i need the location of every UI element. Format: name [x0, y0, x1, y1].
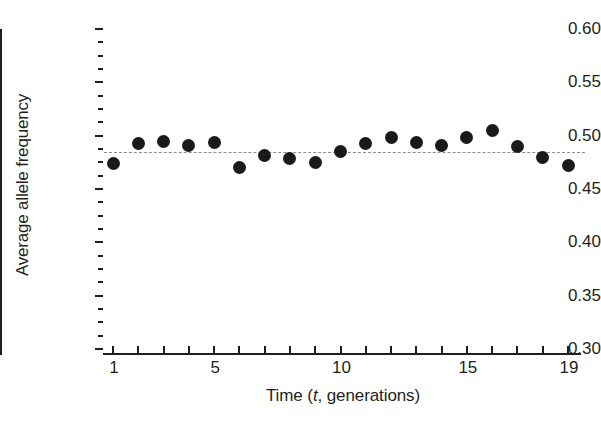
x-tick-label: 15: [448, 358, 488, 378]
data-point: [132, 137, 145, 150]
data-point: [562, 159, 575, 172]
y-tick-minor: [98, 215, 103, 217]
data-point: [435, 139, 448, 152]
y-tick-minor: [98, 121, 103, 123]
data-point: [208, 136, 221, 149]
y-tick-label: 0.50: [528, 126, 601, 146]
y-tick-minor: [98, 95, 103, 97]
data-point: [536, 151, 549, 164]
y-tick-major: [95, 295, 103, 297]
data-point: [410, 136, 423, 149]
data-point: [486, 124, 499, 137]
data-point: [283, 152, 296, 165]
x-axis-title-prefix: Time (: [266, 386, 313, 405]
y-tick-minor: [98, 321, 103, 323]
y-tick-major: [95, 81, 103, 83]
data-point: [309, 156, 322, 169]
y-axis-spine: [0, 29, 2, 355]
y-tick-minor: [98, 175, 103, 177]
x-tick: [137, 346, 139, 354]
data-point: [359, 137, 372, 150]
y-tick-minor: [98, 255, 103, 257]
x-tick: [441, 346, 443, 354]
x-tick: [314, 346, 316, 354]
y-tick-label: 0.60: [528, 19, 601, 39]
x-tick: [112, 346, 114, 354]
y-tick-major: [95, 188, 103, 190]
data-point: [157, 135, 170, 148]
y-tick-major: [95, 135, 103, 137]
data-point: [182, 139, 195, 152]
x-tick: [516, 346, 518, 354]
y-tick-major: [95, 28, 103, 30]
x-tick: [542, 346, 544, 354]
x-axis-title-suffix: , generations): [318, 386, 421, 405]
x-tick-label: 1: [94, 358, 134, 378]
x-tick-label: 5: [195, 358, 235, 378]
x-tick: [213, 346, 215, 354]
data-point: [385, 131, 398, 144]
y-tick-label: 0.30: [528, 339, 601, 359]
data-point: [460, 131, 473, 144]
y-tick-minor: [98, 148, 103, 150]
y-tick-minor: [98, 228, 103, 230]
y-tick-minor: [98, 161, 103, 163]
y-tick-minor: [98, 55, 103, 57]
y-tick-minor: [98, 335, 103, 337]
x-axis-spine: [103, 353, 581, 355]
y-tick-label: 0.35: [528, 286, 601, 306]
x-tick: [491, 346, 493, 354]
y-axis-title: Average allele frequency: [8, 5, 38, 365]
y-tick-label: 0.45: [528, 179, 601, 199]
x-tick: [238, 346, 240, 354]
data-point: [107, 157, 120, 170]
y-tick-label: 0.40: [528, 232, 601, 252]
x-tick: [163, 346, 165, 354]
y-tick-label: 0.55: [528, 72, 601, 92]
x-tick: [415, 346, 417, 354]
x-tick-label: 19: [549, 358, 589, 378]
x-tick: [264, 346, 266, 354]
x-tick: [390, 346, 392, 354]
x-tick: [340, 346, 342, 354]
y-tick-minor: [98, 308, 103, 310]
x-tick: [188, 346, 190, 354]
data-point: [511, 140, 524, 153]
y-tick-minor: [98, 108, 103, 110]
data-point: [258, 149, 271, 162]
y-tick-minor: [98, 41, 103, 43]
y-tick-major: [95, 241, 103, 243]
x-tick: [466, 346, 468, 354]
x-tick: [567, 346, 569, 354]
x-tick-label: 10: [322, 358, 362, 378]
y-tick-minor: [98, 68, 103, 70]
data-point: [233, 161, 246, 174]
y-tick-minor: [98, 268, 103, 270]
x-axis-title: Time (t, generations): [103, 386, 583, 406]
y-tick-minor: [98, 201, 103, 203]
y-tick-major: [95, 348, 103, 350]
data-point: [334, 145, 347, 158]
x-tick: [365, 346, 367, 354]
scatter-chart-figure: Average allele frequency Time (t, genera…: [0, 0, 601, 436]
y-tick-minor: [98, 281, 103, 283]
x-tick: [289, 346, 291, 354]
